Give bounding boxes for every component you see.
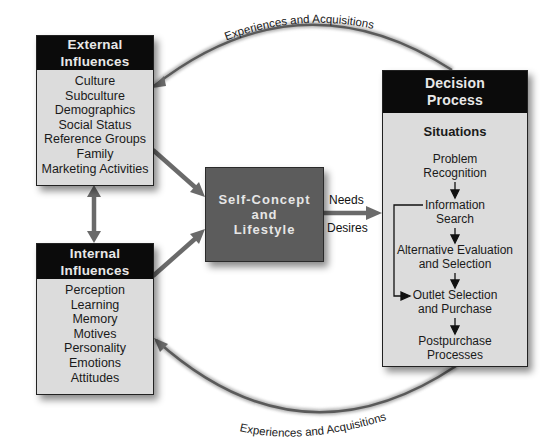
internal-item-personality: Personality <box>37 341 153 356</box>
external-to-self-arrow <box>153 150 205 197</box>
decision-steps: Situations Problem Recognition Informati… <box>383 113 527 365</box>
self-concept-line2: and <box>206 207 323 222</box>
self-concept-line1: Self-Concept <box>206 192 323 207</box>
external-item-demographics: Demographics <box>37 103 153 118</box>
decision-flow-arrows <box>383 113 527 365</box>
internal-item-emotions: Emotions <box>37 356 153 371</box>
external-internal-double-arrow <box>87 185 101 243</box>
needs-label: Needs <box>329 193 364 207</box>
internal-title-line2: Influences <box>37 262 153 279</box>
self-concept-lifestyle-box: Self-Concept and Lifestyle <box>205 167 324 262</box>
bypass-arrow-icon <box>401 292 410 300</box>
external-title-line1: External <box>37 36 153 53</box>
internal-influences-list: Perception Learning Memory Motives Perso… <box>37 279 153 385</box>
internal-to-self-arrow <box>153 229 205 276</box>
internal-item-attitudes: Attitudes <box>37 371 153 386</box>
external-item-family: Family <box>37 147 153 162</box>
external-item-subculture: Subculture <box>37 89 153 104</box>
external-item-social-status: Social Status <box>37 118 153 133</box>
down-arrow-icon <box>451 235 459 243</box>
bypass-connector <box>394 205 423 296</box>
self-to-decision-arrow <box>323 206 382 220</box>
down-arrow-icon <box>451 280 459 288</box>
internal-influences-box: Internal Influences Perception Learning … <box>36 243 154 395</box>
desires-label: Desires <box>327 221 368 235</box>
top-arc-arrowhead-icon <box>152 76 166 88</box>
decision-process-header: Decision Process <box>383 71 527 113</box>
internal-item-perception: Perception <box>37 283 153 298</box>
self-concept-line3: Lifestyle <box>206 222 323 237</box>
decision-process-box: Decision Process Situations Problem Reco… <box>382 70 528 367</box>
decision-title-line1: Decision <box>383 75 527 92</box>
external-influences-box: External Influences Culture Subculture D… <box>36 35 154 186</box>
decision-title-line2: Process <box>383 92 527 109</box>
internal-influences-header: Internal Influences <box>37 244 153 279</box>
internal-item-motives: Motives <box>37 327 153 342</box>
external-item-culture: Culture <box>37 74 153 89</box>
external-influences-list: Culture Subculture Demographics Social S… <box>37 70 153 176</box>
external-title-line2: Influences <box>37 53 153 70</box>
external-influences-header: External Influences <box>37 36 153 70</box>
external-item-marketing-activities: Marketing Activities <box>37 162 153 177</box>
down-arrow-icon <box>451 190 459 198</box>
internal-item-learning: Learning <box>37 298 153 313</box>
external-item-reference-groups: Reference Groups <box>37 132 153 147</box>
internal-item-memory: Memory <box>37 312 153 327</box>
down-arrow-icon <box>451 326 459 334</box>
internal-title-line1: Internal <box>37 245 153 262</box>
